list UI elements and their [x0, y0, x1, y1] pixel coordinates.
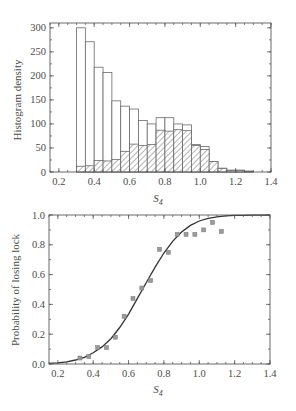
x-tick-label: 1.4: [264, 176, 278, 187]
y-tick-label: 1.0: [32, 210, 45, 221]
axis-ticks: [49, 215, 270, 364]
histogram-bar-loss: [218, 169, 227, 172]
y-tick-label: 50: [36, 142, 47, 153]
x-tick-label: 0.8: [158, 176, 171, 187]
data-point-marker: [140, 286, 144, 290]
data-point-marker: [158, 247, 162, 251]
histogram-bar-loss: [85, 166, 94, 172]
plot-frame: [49, 215, 270, 364]
histogram-bar-loss: [112, 160, 121, 172]
histogram-bar-loss: [174, 130, 183, 172]
data-point-marker: [78, 356, 82, 360]
x-tick-label: 0.2: [52, 176, 65, 187]
y-tick-label: 0.0: [32, 359, 45, 370]
data-point-marker: [219, 229, 223, 233]
x-tick-label: 1.4: [263, 368, 277, 379]
data-point-marker: [202, 228, 206, 232]
x-axis-title: S4: [153, 383, 163, 398]
y-tick-label: 0.4: [32, 299, 46, 310]
fitted-curve: [49, 215, 270, 363]
data-point-marker: [149, 279, 153, 283]
tick-labels: 0.20.40.60.81.01.21.40.00.20.40.60.81.0: [32, 210, 277, 380]
data-point-marker: [211, 220, 215, 224]
histogram-bars: [77, 28, 254, 172]
y-tick-label: 100: [30, 118, 46, 129]
x-tick-label: 1.2: [228, 368, 241, 379]
y-tick-label: 0: [41, 167, 46, 178]
histogram-bar-loss: [165, 131, 174, 172]
observed-points: [78, 220, 223, 360]
y-tick-label: 300: [30, 22, 46, 33]
histogram-bar-loss: [191, 146, 200, 172]
data-point-marker: [175, 232, 179, 236]
data-point-marker: [166, 250, 170, 254]
data-point-marker: [113, 335, 117, 339]
histogram-bar-loss: [94, 160, 103, 172]
histogram-bar-loss: [77, 166, 86, 172]
histogram-bar-total: [77, 28, 86, 172]
y-axis-title: Probability of losing lock: [9, 233, 21, 346]
histogram-chart: 0.20.40.60.81.01.21.4050100150200250300 …: [11, 22, 278, 207]
x-tick-label: 0.2: [51, 368, 64, 379]
histogram-bar-loss: [209, 161, 218, 172]
histogram-bar-loss: [200, 149, 209, 172]
x-tick-label: 1.2: [229, 176, 242, 187]
data-point-marker: [193, 232, 197, 236]
x-tick-label: 0.6: [122, 368, 135, 379]
data-point-marker: [131, 296, 135, 300]
x-tick-label: 0.8: [157, 368, 170, 379]
histogram-bar-loss: [130, 144, 139, 172]
histogram-bar-total: [85, 42, 94, 172]
data-point-marker: [104, 346, 108, 350]
y-tick-label: 200: [30, 70, 46, 81]
histogram-bar-loss: [103, 161, 112, 172]
y-tick-label: 0.2: [32, 329, 45, 340]
figure: 0.20.40.60.81.01.21.4050100150200250300 …: [0, 0, 296, 411]
histogram-bar-loss: [138, 146, 147, 172]
histogram-bar-loss: [121, 151, 130, 172]
probability-chart: 0.20.40.60.81.01.21.40.00.20.40.60.81.0 …: [9, 210, 277, 399]
x-tick-label: 1.0: [193, 368, 206, 379]
histogram-bar-loss: [183, 131, 192, 172]
histogram-bar-total: [103, 73, 112, 172]
y-axis-title: Histogram density: [11, 59, 23, 140]
data-point-marker: [87, 355, 91, 359]
data-point-marker: [122, 314, 126, 318]
y-tick-label: 150: [30, 94, 46, 105]
histogram-bar-loss: [147, 145, 156, 172]
histogram-bar-loss: [156, 130, 165, 172]
y-tick-label: 250: [30, 46, 46, 57]
data-point-marker: [96, 346, 100, 350]
data-point-marker: [184, 232, 188, 236]
y-tick-label: 0.6: [32, 269, 45, 280]
x-tick-label: 0.4: [88, 176, 102, 187]
x-tick-label: 0.4: [87, 368, 101, 379]
x-axis-title: S4: [153, 192, 163, 207]
y-tick-label: 0.8: [32, 239, 45, 250]
histogram-bar-total: [94, 67, 103, 172]
x-tick-label: 1.0: [194, 176, 207, 187]
x-tick-label: 0.6: [123, 176, 136, 187]
